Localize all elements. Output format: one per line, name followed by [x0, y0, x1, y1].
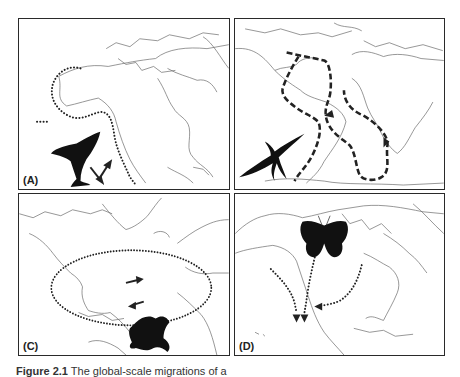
whale-silhouette	[51, 132, 100, 187]
panel-b-tern-migration	[234, 18, 445, 190]
seabird-silhouette	[239, 134, 304, 181]
arrow-east	[314, 303, 322, 311]
butterfly-route-east	[318, 265, 361, 306]
butterfly-silhouette	[300, 221, 348, 257]
panel-a-whale-migration: (A)	[18, 18, 230, 190]
clockwise-arrows	[126, 276, 144, 310]
panel-label-d: (D)	[239, 340, 254, 352]
turtle-route-loop	[51, 250, 211, 325]
whale-route	[52, 67, 136, 185]
arrow-central	[300, 315, 308, 323]
figure-caption-text: The global-scale migrations of a	[71, 365, 227, 377]
two-way-arrows	[90, 159, 112, 185]
tern-route-south	[287, 53, 388, 180]
arrow-west	[293, 315, 301, 323]
panel-label-c: (C)	[23, 340, 38, 352]
figure-caption: Figure 2.1 The global-scale migrations o…	[16, 365, 227, 377]
map-north-america	[235, 194, 444, 355]
panel-d-butterfly-migration: (D)	[234, 193, 445, 356]
figure-number: Figure 2.1	[16, 365, 68, 377]
tern-route-north	[282, 57, 319, 182]
panel-c-turtle-migration: (C)	[18, 193, 230, 356]
butterfly-route-west	[271, 269, 297, 312]
map-north-pacific	[19, 19, 229, 189]
map-north-atlantic	[19, 194, 229, 355]
panel-label-a: (A)	[23, 174, 38, 186]
sea-turtle-silhouette	[129, 316, 169, 352]
map-atlantic	[235, 19, 444, 189]
